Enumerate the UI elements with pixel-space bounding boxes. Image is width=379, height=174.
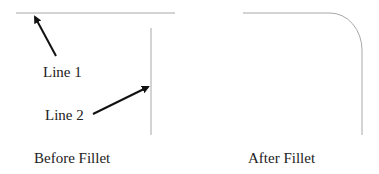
- line-1-pointer-arrow: [35, 17, 56, 56]
- fillet-diagram: [0, 0, 379, 174]
- after-fillet-caption: After Fillet: [248, 151, 315, 166]
- line-2-pointer-arrow: [93, 87, 148, 114]
- before-fillet-caption: Before Fillet: [34, 151, 110, 166]
- line-1-label: Line 1: [43, 65, 82, 80]
- line-2-label: Line 2: [45, 108, 84, 123]
- filleted-corner-path: [243, 13, 362, 135]
